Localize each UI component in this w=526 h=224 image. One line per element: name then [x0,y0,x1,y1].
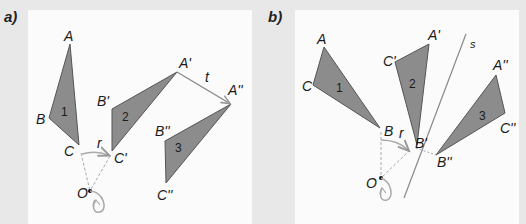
translation-vector [177,72,229,103]
rotation-label: r [399,125,405,141]
center-label: O [366,175,377,191]
label-A-prime: A' [178,55,192,71]
triangle-1 [313,47,380,128]
axis-label: s [470,38,476,50]
label-A: A [63,28,73,44]
triangle-3-number: 3 [175,141,182,155]
panel-a-drawing: A B C 1 A' B' C' 2 A'' B'' C'' 3 t r O [36,28,244,212]
label-A-double-prime: A'' [492,57,509,73]
label-B: B [36,111,45,127]
rotation-label: r [97,135,103,151]
label-B-double-prime: B'' [437,154,453,170]
label-A-prime: A' [427,27,441,43]
triangle-1 [49,44,79,145]
label-C-double-prime: C'' [500,120,517,136]
label-B-double-prime: B'' [155,123,171,139]
label-B-prime: B' [415,135,428,151]
label-C: C [64,143,75,159]
label-C-double-prime: C'' [157,187,174,203]
panel-b-drawing: A C B 1 A' C' B' 2 A'' C'' B'' 3 r s O [302,27,517,200]
rotation-arc [82,152,108,155]
center-label: O [77,185,88,201]
triangle-2-number: 2 [122,110,129,124]
label-C: C [302,78,313,94]
triangle-1-number: 1 [61,105,68,119]
label-B: B [384,123,393,139]
label-B-prime: B' [97,93,110,109]
triangle-1-number: 1 [336,81,343,95]
label-C-prime: C' [383,53,397,69]
diagram-canvas: A B C 1 A' B' C' 2 A'' B'' C'' 3 t r O [0,0,526,224]
label-A-double-prime: A'' [227,82,244,98]
triangle-3-number: 3 [479,109,486,123]
label-C-prime: C' [114,150,128,166]
triangle-2-number: 2 [409,77,416,91]
rotation-arc [381,140,408,150]
translation-label: t [205,69,210,85]
label-A: A [316,31,326,47]
